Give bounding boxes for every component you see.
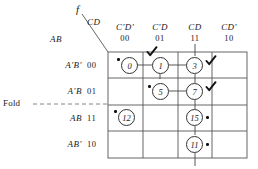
column-header-1: C'D 01 bbox=[142, 22, 178, 43]
row-header-bits-2: 11 bbox=[87, 113, 103, 123]
cell-dot bbox=[114, 110, 117, 113]
column-header-bits: 11 bbox=[177, 33, 213, 43]
column-header-bits: 01 bbox=[142, 33, 178, 43]
minterm-circle-15: 15 bbox=[186, 109, 203, 126]
column-header-bits: 00 bbox=[107, 33, 143, 43]
column-header-name: C'D' bbox=[107, 22, 143, 32]
column-header-name: CD' bbox=[211, 22, 247, 32]
row-header-bits-0: 00 bbox=[87, 60, 103, 70]
row-header-name-2: AB bbox=[42, 113, 82, 123]
cell-dot bbox=[148, 85, 151, 88]
row-header-name-0: A'B' bbox=[42, 60, 82, 70]
column-header-3: CD' 10 bbox=[211, 22, 247, 43]
column-header-0: C'D' 00 bbox=[107, 22, 143, 43]
minterm-circle-12: 12 bbox=[118, 109, 135, 126]
row-header-bits-3: 10 bbox=[87, 139, 103, 149]
function-label: f bbox=[76, 3, 79, 15]
column-header-bits: 10 bbox=[211, 33, 247, 43]
column-header-name: CD bbox=[177, 22, 213, 32]
check-icon bbox=[205, 55, 217, 67]
minterm-circle-11: 11 bbox=[186, 136, 203, 153]
row-header-name-3: AB' bbox=[42, 139, 82, 149]
minterm-circle-0: 0 bbox=[121, 57, 138, 74]
cell-dot bbox=[206, 116, 209, 119]
fold-label: Fold bbox=[3, 98, 20, 108]
minterm-circle-3: 3 bbox=[186, 57, 203, 74]
minterm-circle-7: 7 bbox=[186, 83, 203, 100]
row-header-name-1: A'B bbox=[42, 86, 82, 96]
cell-dot bbox=[117, 58, 120, 61]
check-icon bbox=[205, 81, 217, 93]
minterm-circle-1: 1 bbox=[152, 57, 169, 74]
kmap-figure: f CD AB Fold C'D' 00 C'D 01 CD 11 CD' 10… bbox=[0, 0, 258, 169]
column-header-2: CD 11 bbox=[177, 22, 213, 43]
row-group-label: AB bbox=[50, 34, 62, 44]
row-header-bits-1: 01 bbox=[87, 86, 103, 96]
column-group-label: CD bbox=[87, 17, 100, 27]
column-header-name: C'D bbox=[142, 22, 178, 32]
minterm-circle-5: 5 bbox=[152, 83, 169, 100]
cell-dot bbox=[206, 143, 209, 146]
check-icon bbox=[146, 46, 158, 58]
